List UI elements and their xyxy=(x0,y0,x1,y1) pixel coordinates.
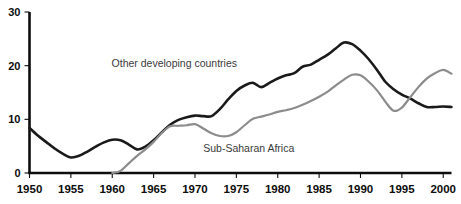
x-axis-tick-label: 1970 xyxy=(182,183,208,195)
x-axis-tick-label: 1955 xyxy=(58,183,84,195)
x-axis-tick-label: 2000 xyxy=(430,183,456,195)
x-axis-tick-label: 1980 xyxy=(265,183,291,195)
series-annotation-label: Sub-Saharan Africa xyxy=(203,142,294,154)
x-axis-tick-label: 1995 xyxy=(389,183,415,195)
x-axis-tick-label: 1965 xyxy=(141,183,167,195)
series-line-other-developing-countries xyxy=(30,42,452,157)
y-axis-tick-label: 10 xyxy=(0,113,21,125)
line-chart-plot xyxy=(0,0,461,204)
x-axis-tick-label: 1990 xyxy=(348,183,374,195)
series-annotation-label: Other developing countries xyxy=(112,57,238,69)
y-axis-tick-label: 0 xyxy=(0,167,21,179)
x-axis-tick-label: 1985 xyxy=(306,183,332,195)
y-axis-tick-label: 30 xyxy=(0,6,21,18)
chart-container: 0102030 19501955196019651970197519801985… xyxy=(0,0,461,204)
x-axis-tick-label: 1975 xyxy=(224,183,250,195)
x-axis-tick-label: 1950 xyxy=(17,183,43,195)
series-line-sub-saharan-africa xyxy=(112,70,451,173)
x-axis-tick-label: 1960 xyxy=(99,183,125,195)
y-axis-tick-label: 20 xyxy=(0,60,21,72)
